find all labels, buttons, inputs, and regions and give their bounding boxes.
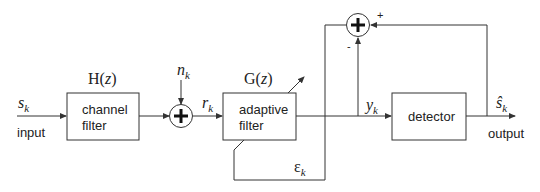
received-symbol: rk xyxy=(202,94,214,114)
detector-label: detector xyxy=(408,109,456,124)
equalized-symbol: yk xyxy=(364,96,379,116)
channel-filter-line2: filter xyxy=(82,118,107,133)
error-symbol: εk xyxy=(294,158,307,178)
output-label: output xyxy=(488,126,525,141)
plus-sign: + xyxy=(377,9,383,21)
adaptive-equalizer-diagram: sk input H(z) channel filter nk rk G(z) … xyxy=(0,0,540,192)
input-label: input xyxy=(17,125,46,140)
adaptive-filter-line1: adaptive xyxy=(239,102,288,117)
adaptive-filter-line2: filter xyxy=(239,118,264,133)
channel-filter-line1: channel xyxy=(82,102,128,117)
minus-sign: - xyxy=(347,40,351,52)
estimate-symbol: ŝk xyxy=(496,94,508,114)
input-symbol: sk xyxy=(18,94,30,114)
channel-transfer-label: H(z) xyxy=(88,70,116,88)
adaptation-arrow-icon xyxy=(288,77,304,93)
adaptive-transfer-label: G(z) xyxy=(244,70,272,88)
noise-symbol: nk xyxy=(177,61,191,81)
